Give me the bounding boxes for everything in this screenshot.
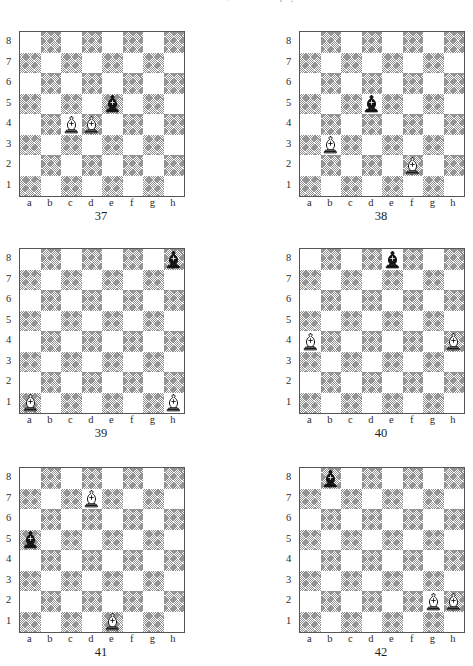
square-b2[interactable] <box>41 155 62 176</box>
square-e7[interactable] <box>102 270 123 291</box>
square-c8[interactable] <box>61 249 82 270</box>
square-h5[interactable] <box>444 311 465 332</box>
square-b8[interactable] <box>41 249 62 270</box>
square-g8[interactable] <box>423 249 444 270</box>
square-h7[interactable] <box>164 53 185 74</box>
square-a1[interactable] <box>20 393 41 414</box>
square-h1[interactable] <box>164 612 185 633</box>
square-c5[interactable] <box>341 94 362 115</box>
square-e4[interactable] <box>102 550 123 571</box>
square-c7[interactable] <box>61 53 82 74</box>
square-a2[interactable] <box>300 372 321 393</box>
square-b8[interactable] <box>321 249 342 270</box>
square-g5[interactable] <box>143 94 164 115</box>
square-b4[interactable] <box>41 114 62 135</box>
square-b1[interactable] <box>41 393 62 414</box>
square-d1[interactable] <box>82 393 103 414</box>
square-g8[interactable] <box>143 468 164 489</box>
square-a3[interactable] <box>300 352 321 373</box>
square-g3[interactable] <box>423 571 444 592</box>
square-d8[interactable] <box>82 249 103 270</box>
square-f2[interactable] <box>403 372 424 393</box>
square-c3[interactable] <box>341 135 362 156</box>
square-h3[interactable] <box>164 135 185 156</box>
square-b1[interactable] <box>321 393 342 414</box>
square-b1[interactable] <box>41 612 62 633</box>
square-b7[interactable] <box>41 53 62 74</box>
square-e8[interactable] <box>102 32 123 53</box>
square-g3[interactable] <box>143 571 164 592</box>
square-b6[interactable] <box>41 290 62 311</box>
square-f4[interactable] <box>403 550 424 571</box>
square-c6[interactable] <box>61 290 82 311</box>
square-d1[interactable] <box>362 612 383 633</box>
square-f6[interactable] <box>123 73 144 94</box>
square-d1[interactable] <box>362 176 383 197</box>
square-f3[interactable] <box>403 135 424 156</box>
square-c4[interactable] <box>61 114 82 135</box>
square-b7[interactable] <box>41 270 62 291</box>
square-c7[interactable] <box>341 53 362 74</box>
square-e3[interactable] <box>102 571 123 592</box>
square-b3[interactable] <box>321 135 342 156</box>
square-b3[interactable] <box>321 571 342 592</box>
square-c3[interactable] <box>61 352 82 373</box>
square-e5[interactable] <box>102 530 123 551</box>
square-f6[interactable] <box>403 290 424 311</box>
square-c5[interactable] <box>61 94 82 115</box>
square-a8[interactable] <box>20 249 41 270</box>
square-e5[interactable] <box>102 311 123 332</box>
square-c2[interactable] <box>341 372 362 393</box>
square-h8[interactable] <box>444 32 465 53</box>
square-e3[interactable] <box>382 571 403 592</box>
square-h3[interactable] <box>444 352 465 373</box>
square-c8[interactable] <box>341 32 362 53</box>
square-f8[interactable] <box>403 468 424 489</box>
square-f2[interactable] <box>123 372 144 393</box>
square-e5[interactable] <box>382 530 403 551</box>
square-f5[interactable] <box>403 311 424 332</box>
square-d5[interactable] <box>82 311 103 332</box>
square-b2[interactable] <box>321 155 342 176</box>
square-g1[interactable] <box>143 393 164 414</box>
square-d4[interactable] <box>362 550 383 571</box>
square-b7[interactable] <box>41 489 62 510</box>
square-h5[interactable] <box>444 530 465 551</box>
square-e7[interactable] <box>102 489 123 510</box>
square-c3[interactable] <box>341 352 362 373</box>
square-c5[interactable] <box>61 311 82 332</box>
square-f2[interactable] <box>403 591 424 612</box>
square-a6[interactable] <box>300 73 321 94</box>
square-h6[interactable] <box>444 290 465 311</box>
square-g8[interactable] <box>143 249 164 270</box>
square-b5[interactable] <box>321 94 342 115</box>
square-b8[interactable] <box>321 32 342 53</box>
square-f1[interactable] <box>123 612 144 633</box>
square-g7[interactable] <box>143 489 164 510</box>
square-d7[interactable] <box>362 53 383 74</box>
square-f6[interactable] <box>403 509 424 530</box>
square-a2[interactable] <box>20 591 41 612</box>
square-e6[interactable] <box>382 290 403 311</box>
square-d4[interactable] <box>362 331 383 352</box>
square-g4[interactable] <box>423 331 444 352</box>
square-h1[interactable] <box>164 176 185 197</box>
square-h3[interactable] <box>444 571 465 592</box>
square-f7[interactable] <box>123 489 144 510</box>
square-h6[interactable] <box>444 73 465 94</box>
square-h2[interactable] <box>164 591 185 612</box>
square-c1[interactable] <box>61 393 82 414</box>
square-b7[interactable] <box>321 270 342 291</box>
square-b5[interactable] <box>41 530 62 551</box>
square-e7[interactable] <box>382 489 403 510</box>
square-e2[interactable] <box>382 372 403 393</box>
square-b1[interactable] <box>321 176 342 197</box>
square-f3[interactable] <box>123 571 144 592</box>
square-a1[interactable] <box>300 176 321 197</box>
square-d1[interactable] <box>362 393 383 414</box>
square-d6[interactable] <box>82 509 103 530</box>
square-c6[interactable] <box>341 73 362 94</box>
square-h5[interactable] <box>444 94 465 115</box>
square-c1[interactable] <box>341 176 362 197</box>
square-c4[interactable] <box>61 550 82 571</box>
